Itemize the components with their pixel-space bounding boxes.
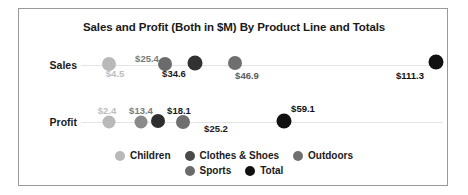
legend-swatch-icon	[185, 166, 195, 176]
legend-item-sports[interactable]: Sports	[185, 165, 232, 176]
row-label-profit: Profit	[21, 116, 77, 128]
legend-label: Total	[260, 165, 283, 176]
legend-swatch-icon	[293, 151, 303, 161]
legend-item-total[interactable]: Total	[245, 165, 283, 176]
legend-item-clothes-shoes[interactable]: Clothes & Shoes	[185, 150, 279, 161]
value-profit-children: $2.4	[98, 105, 117, 116]
value-sales-sports: $25.4	[135, 53, 159, 64]
dot-sales-total[interactable]	[429, 55, 444, 70]
dot-sales-outdoors[interactable]	[228, 56, 242, 70]
value-profit-outdoors: $25.2	[204, 123, 228, 134]
legend-swatch-icon	[185, 151, 195, 161]
axis-line-sales	[81, 65, 443, 66]
dot-profit-sports[interactable]	[135, 116, 148, 129]
chart-panel: Sales and Profit (Both in $M) By Product…	[18, 8, 448, 186]
legend-row-primary: ChildrenClothes & ShoesOutdoors	[19, 148, 449, 163]
value-sales-total: $111.3	[396, 70, 424, 81]
legend-item-children[interactable]: Children	[115, 150, 171, 161]
value-sales-children: $4.5	[106, 68, 125, 79]
legend-row-secondary: SportsTotal	[19, 163, 449, 178]
legend-item-outdoors[interactable]: Outdoors	[293, 150, 353, 161]
dot-profit-children[interactable]	[103, 116, 116, 129]
dot-profit-outdoors[interactable]	[176, 115, 190, 129]
dot-sales-clothes[interactable]	[188, 56, 203, 71]
value-sales-outdoors: $46.9	[235, 70, 259, 81]
legend-label: Children	[130, 150, 171, 161]
dot-profit-clothes[interactable]	[151, 114, 165, 128]
legend-label: Outdoors	[308, 150, 353, 161]
legend-label: Clothes & Shoes	[200, 150, 279, 161]
row-label-sales: Sales	[21, 59, 77, 71]
value-profit-sports: $13.4	[129, 105, 153, 116]
chart-legend: ChildrenClothes & ShoesOutdoors SportsTo…	[19, 148, 449, 178]
legend-swatch-icon	[115, 151, 125, 161]
legend-swatch-icon	[245, 166, 255, 176]
dot-profit-total[interactable]	[277, 114, 292, 129]
value-profit-total: $59.1	[291, 103, 315, 114]
value-sales-clothes: $34.6	[162, 68, 186, 79]
legend-label: Sports	[200, 165, 232, 176]
value-profit-clothes: $18.1	[167, 105, 191, 116]
